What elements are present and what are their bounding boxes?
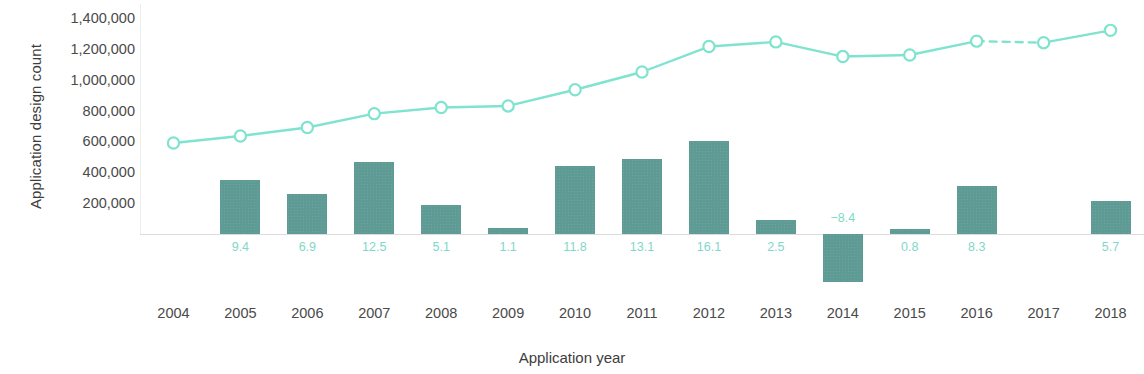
- bar-data-label: 1.1: [499, 240, 516, 254]
- bar-data-label: 0.8: [901, 240, 918, 254]
- x-axis-tick-label: 2015: [894, 305, 926, 321]
- bar: [220, 180, 260, 234]
- x-axis-tick-label: 2013: [760, 305, 792, 321]
- bar-data-label: 5.1: [432, 240, 449, 254]
- bar: [890, 229, 930, 234]
- line-segment: [173, 136, 240, 143]
- line-segment: [240, 128, 307, 136]
- line-segment: [508, 90, 575, 106]
- y-axis-tick-label: 200,000: [15, 195, 135, 211]
- line-segment: [441, 106, 508, 108]
- x-axis-tick-label: 2017: [1027, 305, 1059, 321]
- line-marker: [971, 36, 982, 47]
- bar-data-label: 16.1: [697, 240, 721, 254]
- line-segment: [709, 42, 776, 47]
- line-marker: [503, 100, 514, 111]
- line-marker: [770, 36, 781, 47]
- bar: [689, 141, 729, 234]
- line-marker: [369, 108, 380, 119]
- bar: [756, 220, 796, 234]
- bar-data-label: 9.4: [232, 240, 249, 254]
- line-marker: [1105, 25, 1116, 36]
- x-axis-title: Application year: [0, 349, 1144, 366]
- x-axis-tick-label: 2012: [693, 305, 725, 321]
- line-marker: [168, 137, 179, 148]
- bar: [287, 194, 327, 234]
- line-segment: [642, 47, 709, 72]
- line-marker: [569, 84, 580, 95]
- bar-data-label: 6.9: [299, 240, 316, 254]
- line-marker: [235, 130, 246, 141]
- bar: [354, 162, 394, 234]
- x-axis-tick-label: 2014: [827, 305, 859, 321]
- x-axis-tick-label: 2010: [559, 305, 591, 321]
- y-axis-tick-label: 1,400,000: [15, 10, 135, 26]
- bar: [957, 186, 997, 234]
- x-axis-tick-label: 2008: [425, 305, 457, 321]
- line-marker: [636, 66, 647, 77]
- x-axis-tick-label: 2018: [1094, 305, 1126, 321]
- line-segment: [575, 72, 642, 90]
- line-marker: [1038, 37, 1049, 48]
- bar: [622, 159, 662, 234]
- x-axis-tick-label: 2009: [492, 305, 524, 321]
- bar-data-label: 12.5: [362, 240, 386, 254]
- line-segment: [843, 55, 910, 57]
- line-segment: [977, 41, 1044, 43]
- y-axis-ticks: 200,000400,000600,000800,0001,000,0001,2…: [10, 0, 135, 374]
- x-axis-tick-label: 2006: [291, 305, 323, 321]
- y-axis-tick-label: 800,000: [15, 103, 135, 119]
- line-marker: [436, 102, 447, 113]
- line-marker: [703, 41, 714, 52]
- chart-container: Application design count Application yea…: [0, 0, 1144, 374]
- y-axis-tick-label: 1,000,000: [15, 72, 135, 88]
- line-segment: [776, 42, 843, 57]
- x-axis-tick-label: 2011: [626, 305, 657, 321]
- bar: [421, 205, 461, 234]
- bar-data-label: 13.1: [630, 240, 654, 254]
- x-axis-tick-label: 2016: [961, 305, 993, 321]
- bar: [555, 166, 595, 234]
- y-axis-tick-label: 400,000: [15, 164, 135, 180]
- bar-data-label: 8.3: [968, 240, 985, 254]
- line-marker: [837, 51, 848, 62]
- plot-area: 9.46.912.55.11.111.813.116.12.5−8.40.88.…: [140, 0, 1144, 340]
- line-marker: [302, 122, 313, 133]
- line-segment: [910, 41, 977, 55]
- bar-data-label: 11.8: [563, 240, 586, 254]
- bar-data-label: 5.7: [1102, 240, 1119, 254]
- bar: [1091, 201, 1131, 234]
- line-segment: [1044, 30, 1111, 42]
- line-marker: [904, 49, 915, 60]
- bar: [488, 228, 528, 234]
- bar-data-label: −8.4: [830, 211, 855, 225]
- x-axis-tick-label: 2004: [157, 305, 189, 321]
- y-axis-tick-label: 1,200,000: [15, 41, 135, 57]
- y-axis-tick-label: 600,000: [15, 133, 135, 149]
- line-segment: [374, 107, 441, 113]
- line-segment: [307, 114, 374, 128]
- bar-data-label: 2.5: [767, 240, 784, 254]
- x-axis-tick-label: 2005: [224, 305, 256, 321]
- bar: [823, 234, 863, 282]
- x-axis-tick-label: 2007: [358, 305, 390, 321]
